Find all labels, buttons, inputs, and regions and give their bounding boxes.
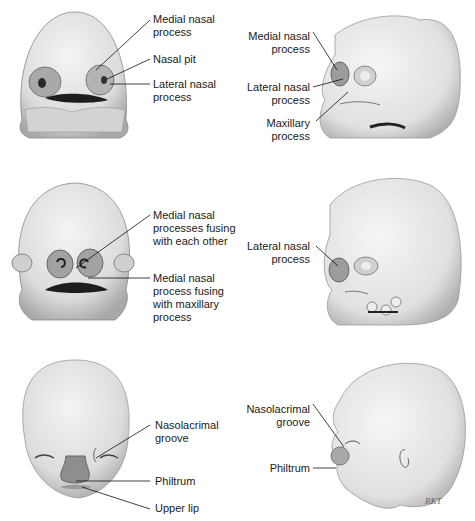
label-nasolacrimal-groove: Nasolacrimal groove: [155, 419, 219, 445]
label-nasolacrimal-groove-lateral: Nasolacrimal groove: [240, 403, 310, 429]
label-philtrum-lateral: Philtrum: [240, 462, 310, 475]
label-lateral-nasal-process-lateral: Lateral nasal process: [240, 81, 310, 107]
stage3-frontal-face: [23, 360, 129, 498]
stage1-frontal-embryo: [20, 12, 128, 138]
svg-text:RKT: RKT: [424, 496, 443, 506]
stage2-lateral-embryo: [324, 178, 461, 325]
label-maxillary-process: Maxillary process: [240, 117, 310, 143]
stage2-frontal-embryo: [12, 183, 134, 320]
label-medial-nasal-process: Medial nasal process: [153, 13, 215, 39]
label-medial-nasal-processes-fusing: Medial nasal processes fusing with each …: [153, 209, 236, 248]
stage3-lateral-head: RKT: [331, 363, 465, 508]
label-medial-nasal-process-fusing-maxillary: Medial nasal process fusing with maxilla…: [153, 272, 224, 324]
stage1-lateral-embryo: [320, 16, 460, 138]
label-lateral-nasal-process-stage2: Lateral nasal process: [240, 240, 310, 266]
label-nasal-pit: Nasal pit: [153, 53, 196, 66]
label-philtrum: Philtrum: [155, 475, 195, 488]
label-medial-nasal-process-lateral: Medial nasal process: [240, 30, 310, 56]
label-lateral-nasal-process: Lateral nasal process: [153, 78, 216, 104]
illustration-canvas: RKT: [0, 0, 475, 521]
label-upper-lip: Upper lip: [155, 502, 199, 515]
